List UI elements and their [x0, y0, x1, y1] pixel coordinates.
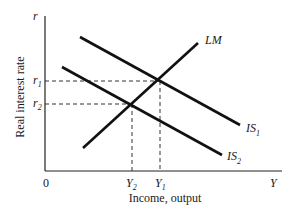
y2-label: Y2 [126, 176, 137, 192]
y1-label: Y1 [155, 176, 166, 192]
r2-sub: 2 [38, 103, 42, 112]
origin-label: 0 [43, 176, 49, 190]
x-axis-symbol: Y [270, 176, 278, 190]
x-axis-title: Income, output [129, 191, 202, 205]
is2-label-main: IS [226, 149, 237, 163]
is2-curve [62, 67, 222, 155]
is-lm-diagram: LM IS1 IS2 r Y 0 r1 r2 Y1 Y2 Income, out… [0, 0, 297, 217]
y-axis-title: Real interest rate [13, 56, 27, 137]
is2-label: IS2 [226, 149, 241, 166]
is2-label-sub: 2 [237, 157, 241, 166]
is1-label-main: IS [245, 121, 256, 135]
is1-label-sub: 1 [256, 129, 260, 138]
is1-label: IS1 [245, 121, 260, 138]
r1-label: r1 [33, 73, 42, 89]
lm-label: LM [204, 33, 223, 47]
r2-label: r2 [33, 96, 42, 112]
r1-sub: 1 [38, 80, 42, 89]
y-axis-symbol: r [33, 9, 38, 23]
